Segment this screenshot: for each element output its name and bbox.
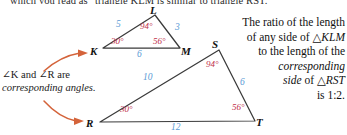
vertex-label-M: M [181,45,191,57]
vertex-label-T: T [256,116,263,128]
caption-right-line5-side: side [283,74,302,86]
side-length-KM: 6 [137,49,142,59]
side-length-KL: 5 [116,19,121,29]
vertex-label-K: K [90,45,97,57]
angle-label-R: 30° [120,104,133,114]
caption-right-line4: corresponding [218,59,345,74]
angle-label-S: 94° [206,59,219,69]
caption-left-line1: ∠K and ∠R are [2,68,124,81]
angle-label-K: 30° [111,36,124,46]
side-length-LM: 3 [175,22,180,32]
triangle-symbol-klm-icon: △ [312,31,321,43]
caption-ratio-statement: The ratio of the length of any side of △… [218,15,345,103]
angle-label-T: 56° [232,102,245,112]
caption-corresponding-angles: ∠K and ∠R are corresponding angles. [2,68,124,94]
angle-label-L: 94° [140,21,153,31]
caption-right-line2-text: of any side of [247,31,313,43]
caption-right-line1: The ratio of the length [218,15,345,30]
caption-right-line6: is 1:2. [218,88,345,103]
vertex-label-L: L [150,4,157,16]
angle-label-M: 56° [153,36,166,46]
vertex-label-R: R [86,117,93,129]
caption-right-line5: side of △RST [218,73,345,88]
side-length-RT: 12 [171,122,181,132]
caption-right-line3: to the length of the [218,44,345,59]
figure-page: which you read as "triangle KLM is simil… [0,0,347,135]
triangle-name-rst: RST [326,74,345,86]
triangle-symbol-rst-icon: △ [317,74,326,86]
caption-right-line2: of any side of △KLM [218,30,345,45]
triangle-name-klm: KLM [321,31,345,43]
caption-left-line2: corresponding angles. [2,81,124,94]
caption-right-line5-of: of [302,74,317,86]
side-length-RS: 10 [143,72,153,82]
arrow-to-r-icon [44,101,84,125]
